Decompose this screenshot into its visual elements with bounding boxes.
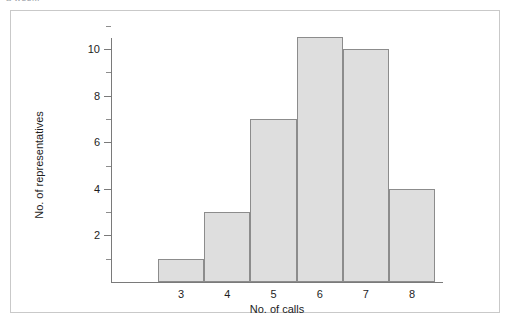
y-axis-minor-tick xyxy=(106,119,111,120)
y-axis-major-tick xyxy=(104,49,111,50)
y-axis-line xyxy=(111,38,112,283)
y-axis-tick-label: 2 xyxy=(78,229,100,241)
y-axis-tick-label: 6 xyxy=(78,136,100,148)
y-axis-minor-tick xyxy=(106,166,111,167)
y-axis-minor-tick xyxy=(106,72,111,73)
y-axis-major-tick xyxy=(104,189,111,190)
scan-top-caption: a week. xyxy=(6,0,40,3)
x-axis-tick-label: 4 xyxy=(212,288,242,300)
histogram-bar xyxy=(158,259,204,282)
y-axis-major-tick xyxy=(104,142,111,143)
x-axis-tick-label: 6 xyxy=(305,288,335,300)
figure-frame: No. of representatives 246810 345678 No.… xyxy=(10,10,500,313)
y-axis-minor-tick xyxy=(106,212,111,213)
x-axis-title: No. of calls xyxy=(111,303,443,315)
histogram-bar xyxy=(204,212,250,282)
y-axis-minor-tick xyxy=(106,259,111,260)
histogram-bar xyxy=(250,119,296,282)
histogram-bar xyxy=(297,37,343,282)
y-axis-tick-label: 10 xyxy=(78,43,100,55)
histogram-plot-area: No. of representatives 246810 345678 No.… xyxy=(11,11,501,314)
x-axis-line xyxy=(111,282,443,283)
x-axis-tick-label: 7 xyxy=(351,288,381,300)
histogram-bar xyxy=(343,49,389,282)
x-axis-tick-label: 8 xyxy=(397,288,427,300)
histogram-bar xyxy=(389,189,435,282)
y-axis-major-tick xyxy=(104,235,111,236)
y-axis-major-tick xyxy=(104,96,111,97)
y-axis-tick-label: 8 xyxy=(78,90,100,102)
y-axis-minor-tick xyxy=(106,26,111,27)
y-axis-tick-label: 4 xyxy=(78,183,100,195)
y-axis-title: No. of representatives xyxy=(33,85,45,245)
x-axis-tick-label: 5 xyxy=(259,288,289,300)
x-axis-tick-label: 3 xyxy=(166,288,196,300)
